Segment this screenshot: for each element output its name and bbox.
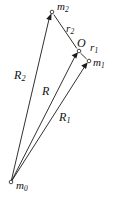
vector-label-r1: r1 — [90, 42, 98, 55]
vector-label-R2: R2 — [14, 69, 26, 83]
diagram-canvas — [0, 0, 115, 198]
vector-r1 — [81, 53, 87, 59]
vector-R1-arrowhead — [81, 62, 87, 69]
vector-R2-arrowhead — [46, 13, 51, 20]
node-label-m0: m0 — [16, 180, 28, 193]
vector-label-R: R — [42, 85, 50, 99]
vector-label-R1: R1 — [59, 111, 71, 125]
vector-r1-shaft — [81, 53, 87, 59]
vector-label-r2: r2 — [66, 23, 74, 36]
node-m2-marker — [50, 10, 54, 14]
vector-R2-shaft — [11, 18, 49, 183]
vector-diagram-figure: m0 m2 O m1 R2 R R1 r2 r1 — [0, 0, 115, 198]
node-label-O: O — [77, 37, 86, 51]
node-label-m1: m1 — [93, 57, 105, 70]
node-m1-marker — [87, 59, 91, 63]
node-m0-marker — [9, 180, 13, 184]
node-label-m2: m2 — [57, 1, 69, 14]
